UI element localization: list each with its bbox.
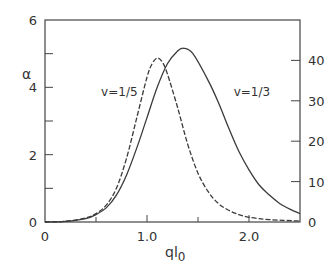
curve-annotation: v=1/5 bbox=[101, 85, 137, 99]
y-right-tick-label: 30 bbox=[308, 94, 325, 109]
curves bbox=[45, 48, 300, 222]
y-right-tick-label: 10 bbox=[308, 175, 325, 190]
y-left-tick-label: 6 bbox=[29, 13, 37, 28]
x-axis-label-subscript: 0 bbox=[178, 250, 186, 264]
x-tick-label: 0 bbox=[41, 229, 49, 244]
x-tick-label: 2.0 bbox=[239, 229, 260, 244]
x-tick-label: 1.0 bbox=[137, 229, 158, 244]
y-axis-right-ticks: 010203040 bbox=[291, 53, 325, 230]
x-axis-ticks: 01.02.0 bbox=[41, 215, 259, 244]
line-chart: 01.02.0 0246 010203040 v=1/5v=1/3 α ql0 bbox=[0, 0, 334, 275]
y-axis-left-ticks: 0246 bbox=[29, 13, 53, 230]
plot-frame bbox=[45, 20, 300, 222]
y-left-tick-label: 0 bbox=[29, 215, 37, 230]
curve-annotations: v=1/5v=1/3 bbox=[101, 85, 270, 99]
y-axis-label: α bbox=[22, 66, 31, 82]
y-right-tick-label: 0 bbox=[308, 215, 316, 230]
x-axis-label: ql0 bbox=[165, 244, 185, 264]
x-axis-label-main: ql bbox=[165, 244, 178, 260]
dashed-curve-v-1-5 bbox=[45, 58, 300, 222]
y-left-tick-label: 4 bbox=[29, 80, 37, 95]
y-left-tick-label: 2 bbox=[29, 148, 37, 163]
y-right-tick-label: 20 bbox=[308, 134, 325, 149]
solid-curve-v-1-3 bbox=[45, 48, 300, 222]
curve-annotation: v=1/3 bbox=[234, 85, 270, 99]
y-right-tick-label: 40 bbox=[308, 53, 325, 68]
